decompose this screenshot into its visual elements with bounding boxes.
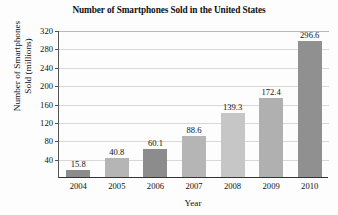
x-tick-label: 2008 xyxy=(224,181,241,191)
gridline xyxy=(59,105,329,106)
y-tick-label: 120 xyxy=(40,118,53,128)
chart-title: Number of Smartphones Sold in the United… xyxy=(0,5,338,15)
bar-2006: 60.12006 xyxy=(143,149,167,177)
y-axis-label: Number of Smartphones Sold (millions) xyxy=(9,0,37,141)
bar-2010: 296.62010 xyxy=(298,41,322,177)
x-tick-label: 2009 xyxy=(263,181,280,191)
bar-value-label: 60.1 xyxy=(148,138,163,148)
x-tick-label: 2004 xyxy=(70,181,87,191)
y-tick-label: 200 xyxy=(40,81,53,91)
x-axis-label: Year xyxy=(58,198,328,208)
tick-mark xyxy=(55,141,59,142)
gridline xyxy=(59,68,329,69)
y-tick-label: 320 xyxy=(40,26,53,36)
y-tick-label: 240 xyxy=(40,63,53,73)
y-tick-label: 40 xyxy=(44,155,53,165)
tick-mark xyxy=(55,160,59,161)
gridline xyxy=(59,49,329,50)
bar-2008: 139.32008 xyxy=(221,113,245,177)
bar-value-label: 296.6 xyxy=(300,30,319,40)
y-axis-label-line-1: Number of Smartphones xyxy=(12,21,23,111)
x-tick-label: 2006 xyxy=(147,181,164,191)
y-tick-label: 160 xyxy=(40,100,53,110)
x-tick-label: 2010 xyxy=(301,181,318,191)
tick-mark xyxy=(55,86,59,87)
x-tick-label: 2007 xyxy=(185,181,202,191)
tick-mark xyxy=(55,105,59,106)
bar-chart-figure: Number of Smartphones Sold in the United… xyxy=(0,0,338,215)
tick-mark xyxy=(55,49,59,50)
bar-2004: 15.82004 xyxy=(66,170,90,177)
gridline xyxy=(59,123,329,124)
bar-value-label: 139.3 xyxy=(223,102,242,112)
y-tick-label: 80 xyxy=(44,136,53,146)
bar-2007: 88.62007 xyxy=(182,136,206,177)
bar-2009: 172.42009 xyxy=(259,98,283,177)
bar-value-label: 88.6 xyxy=(186,125,201,135)
tick-mark xyxy=(55,123,59,124)
plot-area: 4080120160200240280320 15.8200440.820056… xyxy=(58,31,328,178)
gridline xyxy=(59,86,329,87)
x-tick-label: 2005 xyxy=(108,181,125,191)
tick-mark xyxy=(55,31,59,32)
gridline xyxy=(59,31,329,32)
bar-value-label: 172.4 xyxy=(261,87,280,97)
y-tick-label: 280 xyxy=(40,44,53,54)
tick-mark xyxy=(55,68,59,69)
bar-value-label: 40.8 xyxy=(109,147,124,157)
bar-value-label: 15.8 xyxy=(71,159,86,169)
y-axis-label-line-2: Sold (millions) xyxy=(23,38,34,93)
bar-2005: 40.82005 xyxy=(105,158,129,177)
